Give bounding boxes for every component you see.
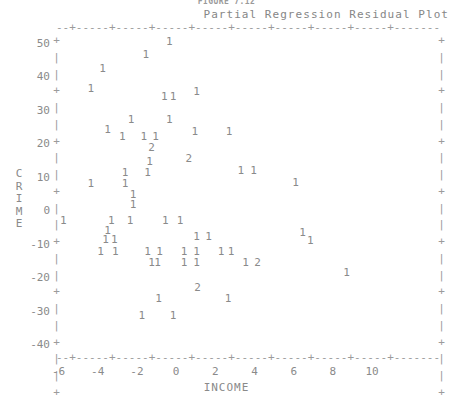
data-point-marker: 1 (58, 215, 68, 226)
data-point-marker: 1 (109, 234, 119, 245)
data-point-marker: 1 (241, 257, 251, 268)
data-point-marker: 1 (168, 91, 178, 102)
data-point-marker: 1 (145, 156, 155, 167)
data-point-marker: 1 (223, 293, 233, 304)
data-point-marker: 2 (147, 142, 157, 153)
data-point-marker: 2 (184, 153, 194, 164)
data-point-marker: 1 (342, 267, 352, 278)
data-point-marker: 1 (164, 36, 174, 47)
data-point-marker: 1 (139, 131, 149, 142)
data-point-marker: 1 (249, 165, 259, 176)
data-point-marker: 1 (126, 114, 136, 125)
data-point-marker: 2 (193, 282, 203, 293)
data-point-marker: 1 (141, 49, 151, 60)
data-point-marker: 1 (291, 177, 301, 188)
data-point-marker: 1 (117, 131, 127, 142)
data-point-marker: 1 (203, 231, 213, 242)
data-point-marker: 1 (160, 215, 170, 226)
data-point-marker: 1 (86, 83, 96, 94)
data-point-marker: 1 (151, 131, 161, 142)
data-point-marker: 1 (98, 63, 108, 74)
data-point-marker: 1 (110, 246, 120, 257)
data-point-marker: 2 (252, 257, 262, 268)
data-point-marker: 1 (137, 310, 147, 321)
data-point-marker: 1 (86, 178, 96, 189)
data-point-marker: 1 (175, 215, 185, 226)
data-point-marker: 1 (143, 167, 153, 178)
data-point-marker: 1 (190, 126, 200, 137)
data-point-marker: 1 (168, 310, 178, 321)
data-point-marker: 1 (179, 257, 189, 268)
data-point-marker: 1 (153, 293, 163, 304)
data-point-marker: 1 (96, 246, 106, 257)
data-point-marker: 1 (224, 126, 234, 137)
data-point-marker: 1 (192, 86, 202, 97)
data-point-marker: 1 (192, 257, 202, 268)
data-point-marker: 1 (120, 178, 130, 189)
data-point-marker: 1 (164, 114, 174, 125)
data-point-marker: 1 (128, 199, 138, 210)
data-point-marker: 1 (103, 124, 113, 135)
data-point-marker: 1 (125, 215, 135, 226)
data-point-marker: 1 (236, 165, 246, 176)
data-point-marker: 1 (216, 246, 226, 257)
data-point-marker: 1 (152, 257, 162, 268)
data-point-marker: 1 (192, 231, 202, 242)
scatter-plot-area: 1111111111111112121111111111111111111111… (0, 0, 453, 403)
data-point-marker: 1 (226, 246, 236, 257)
data-point-marker: 1 (305, 235, 315, 246)
